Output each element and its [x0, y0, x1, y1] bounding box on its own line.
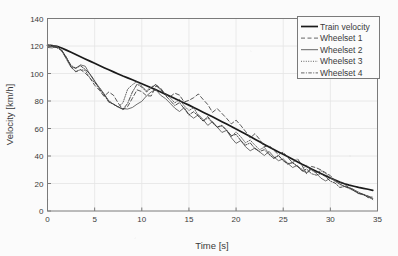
legend: Train velocityWheelset 1Wheelset 2Wheels…: [298, 17, 380, 79]
x-tick-label: 20: [232, 215, 241, 224]
y-tick-label: 80: [35, 97, 44, 106]
x-tick-label: 0: [45, 215, 50, 224]
y-tick-label: 0: [39, 207, 44, 216]
legend-label-wheelset-1: Wheelset 1: [320, 33, 363, 43]
y-tick-label: 40: [35, 152, 44, 161]
y-tick-label: 60: [35, 125, 44, 134]
y-axis-label: Velocity [km/h]: [4, 84, 15, 145]
y-tick-label: 140: [30, 15, 44, 24]
legend-label-wheelset-3: Wheelset 3: [320, 56, 363, 66]
legend-label-wheelset-2: Wheelset 2: [320, 45, 363, 55]
x-axis-label: Time [s]: [195, 240, 228, 251]
figure-container: 05101520253035 020406080100120140 Time […: [0, 0, 398, 256]
x-tick-label: 10: [137, 215, 146, 224]
y-tick-label: 100: [30, 70, 44, 79]
x-tick-label: 35: [373, 215, 382, 224]
legend-label-wheelset-4: Wheelset 4: [320, 68, 363, 78]
legend-label-train-velocity: Train velocity: [320, 22, 371, 32]
y-tick-label: 120: [30, 42, 44, 51]
velocity-time-chart: 05101520253035 020406080100120140 Time […: [0, 0, 398, 256]
x-tick-label: 30: [326, 215, 335, 224]
y-tick-label: 20: [35, 180, 44, 189]
x-tick-label: 25: [279, 215, 288, 224]
x-tick-label: 5: [92, 215, 97, 224]
x-tick-label: 15: [184, 215, 193, 224]
